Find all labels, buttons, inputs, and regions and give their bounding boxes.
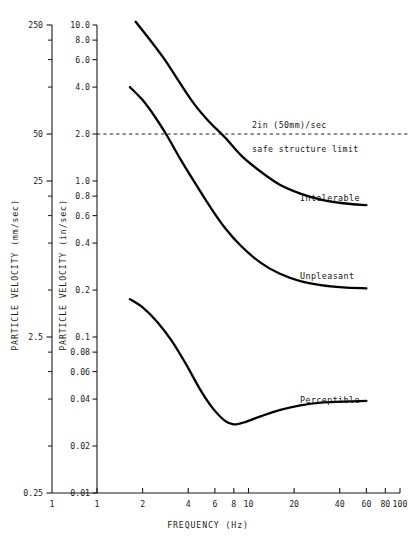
annotation-limit-bottom: safe structure limit [252, 144, 359, 154]
y-ticklabel-inner: 0.02 [70, 441, 90, 451]
x-ticklabel: 100 [393, 499, 408, 509]
chart-canvas: 25050252.50.25 10.08.06.04.02.01.00.80.6… [0, 0, 418, 544]
y-ticklabel-inner: 0.2 [75, 285, 90, 295]
x-ticklabel: 1 [95, 499, 100, 509]
y-ticklabel-inner: 0.08 [70, 347, 90, 357]
curve-label-perceptible: Perceptible [300, 395, 360, 405]
y-ticklabel-outer: 2.5 [28, 332, 43, 342]
x-ticklabel: 20 [289, 499, 299, 509]
y-ticklabel-inner: 0.8 [75, 191, 90, 201]
x-ticklabel: 8 [231, 499, 236, 509]
y-axis-outer-title: PARTICLE VELOCITY (mm/sec) [10, 199, 20, 351]
x-ticklabel: 2 [140, 499, 145, 509]
curve-label-unpleasant: Unpleasant [300, 271, 354, 281]
y-ticklabel-inner: 1.0 [75, 176, 90, 186]
x-ticklabel: 40 [335, 499, 345, 509]
x-ticklabel: 60 [361, 499, 371, 509]
y-ticklabel-outer: 25 [33, 176, 43, 186]
y-ticklabel-inner: 8.0 [75, 35, 90, 45]
y-axis-inner-title: PARTICLE VELOCITY (in/sec) [58, 199, 68, 351]
y-ticklabel-outer: 250 [28, 20, 43, 30]
y-ticklabel-inner: 0.6 [75, 211, 90, 221]
y-ticklabel-inner: 4.0 [75, 82, 90, 92]
y-ticklabel-inner: 0.04 [70, 394, 90, 404]
x-ticklabel: 4 [186, 499, 191, 509]
x-axis-title: FREQUENCY (Hz) [167, 520, 249, 530]
y-ticklabel-inner: 0.1 [75, 332, 90, 342]
y-ticklabel-outer: 0.25 [23, 488, 43, 498]
y-ticklabel-inner: 6.0 [75, 55, 90, 65]
x-ticklabel: 6 [212, 499, 217, 509]
x-ticklabel: 80 [380, 499, 390, 509]
y-ticklabel-inner: 2.0 [75, 129, 90, 139]
annotation-limit-top: 2in (50mm)/sec [252, 120, 327, 130]
vibration-perception-chart: 25050252.50.25 10.08.06.04.02.01.00.80.6… [0, 0, 418, 544]
x-ticklabel-outer-origin: 1 [50, 499, 55, 509]
y-ticklabel-outer: 50 [33, 129, 43, 139]
y-ticklabel-inner: 10.0 [70, 20, 90, 30]
curve-label-intolerable: Intolerable [300, 193, 360, 203]
y-ticklabel-inner: 0.06 [70, 367, 90, 377]
y-ticklabel-inner: 0.4 [75, 238, 90, 248]
x-ticklabel: 10 [244, 499, 254, 509]
